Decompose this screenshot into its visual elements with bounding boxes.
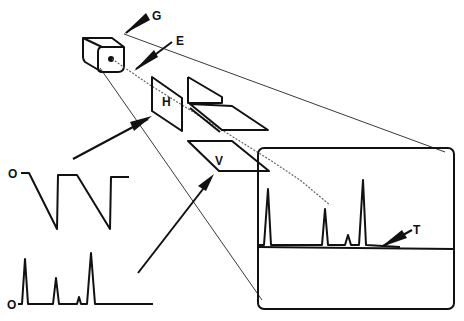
label-g: G <box>152 9 161 23</box>
screen-trace <box>258 180 400 247</box>
label-v: V <box>215 154 223 168</box>
label-h: H <box>162 95 171 109</box>
electron-gun <box>83 38 124 72</box>
signal-waveform: O <box>7 253 153 312</box>
label-t: T <box>413 223 421 237</box>
oscilloscope-diagram: G E H V O O <box>0 0 464 321</box>
trace-pointer: T <box>381 223 421 247</box>
v-pointer <box>138 174 214 273</box>
gun-pointer: G <box>124 9 161 34</box>
h-pointer <box>73 116 152 159</box>
sawtooth-waveform: O <box>8 167 129 229</box>
label-o-signal: O <box>7 298 16 312</box>
horizontal-deflection-plates: H <box>152 77 268 132</box>
screen <box>258 148 454 309</box>
beam-pointer: E <box>134 34 184 71</box>
projection-lines <box>100 34 445 300</box>
label-e: E <box>176 34 184 48</box>
label-o-sawtooth: O <box>8 167 17 181</box>
electron-source-dot <box>108 56 114 62</box>
vertical-deflection-plates: V <box>188 141 269 171</box>
